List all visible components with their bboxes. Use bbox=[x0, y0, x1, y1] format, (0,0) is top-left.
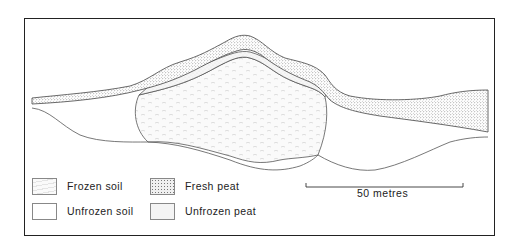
legend-label: Unfrozen peat bbox=[185, 205, 256, 217]
legend-item-fresh-peat: Fresh peat bbox=[150, 177, 239, 195]
unfrozen-peat-swatch bbox=[150, 203, 175, 220]
fresh-peat-swatch bbox=[150, 178, 175, 195]
frozen-soil-swatch bbox=[32, 178, 57, 195]
legend-label: Frozen soil bbox=[67, 180, 123, 192]
legend-item-frozen-soil: Frozen soil bbox=[32, 177, 123, 195]
legend-item-unfrozen-soil: Unfrozen soil bbox=[32, 202, 133, 220]
scale-bar-label: 50 metres bbox=[357, 187, 408, 199]
legend-label: Unfrozen soil bbox=[67, 205, 133, 217]
unfrozen-soil-swatch bbox=[32, 203, 57, 220]
legend-label: Fresh peat bbox=[185, 180, 239, 192]
legend-item-unfrozen-peat: Unfrozen peat bbox=[150, 202, 256, 220]
